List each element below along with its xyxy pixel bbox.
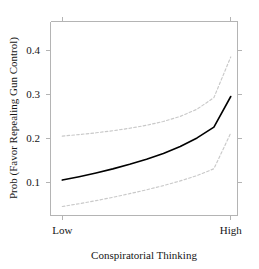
y-tick-label: 0.4 <box>26 44 40 56</box>
y-tick-label: 0.1 <box>26 176 40 188</box>
x-axis-title: Conspiratorial Thinking <box>91 249 197 261</box>
y-tick-label: 0.3 <box>26 88 40 100</box>
chart-figure: 0.1 0.2 0.3 0.4 Low High Conspiratorial … <box>0 0 259 269</box>
x-tick-label-high: High <box>220 224 242 236</box>
y-axis-title: Prob (Favor Repealing Gun Control) <box>7 38 19 200</box>
axis-frame <box>51 22 238 216</box>
x-tick-label-low: Low <box>52 224 72 236</box>
y-tick-label: 0.2 <box>26 132 40 144</box>
axis-ticks <box>46 17 242 220</box>
data-series <box>62 57 230 207</box>
